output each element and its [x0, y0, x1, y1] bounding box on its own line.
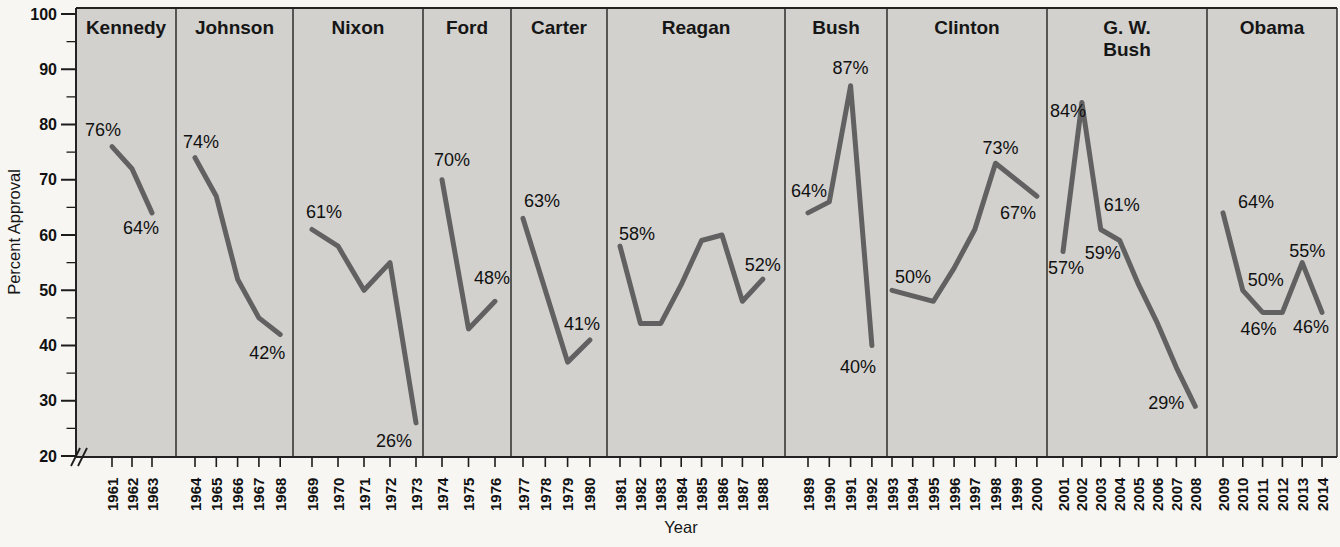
- year-label: 1965: [208, 478, 225, 511]
- year-label: 2012: [1274, 478, 1291, 511]
- year-label: 2011: [1254, 478, 1271, 511]
- year-label: 1973: [408, 478, 425, 511]
- year-label: 2000: [1028, 478, 1045, 511]
- year-label: 2004: [1111, 477, 1128, 511]
- year-label: 1966: [229, 478, 246, 511]
- panel-bg-johnson: [176, 8, 293, 457]
- data-label-kennedy-1963: 64%: [123, 218, 159, 238]
- data-label-nixon-1973: 26%: [376, 431, 412, 451]
- y-tick-label: 100: [30, 6, 57, 23]
- year-label: 1983: [652, 478, 669, 511]
- year-label: 2007: [1168, 478, 1185, 511]
- data-label-kennedy-1961: 76%: [85, 120, 121, 140]
- y-tick-label: 30: [39, 392, 57, 409]
- year-label: 1992: [863, 478, 880, 511]
- year-label: 1990: [821, 478, 838, 511]
- year-label: 2005: [1130, 478, 1147, 511]
- year-label: 1981: [612, 478, 629, 511]
- approval-chart-figure: Kennedy76%64%Johnson74%42%Nixon61%26%For…: [0, 0, 1340, 547]
- year-label: 2003: [1092, 478, 1109, 511]
- data-label-johnson-1964: 74%: [183, 132, 219, 152]
- y-tick-label: 50: [39, 282, 57, 299]
- data-label-bush-1992: 40%: [840, 357, 876, 377]
- data-label-obama-2013: 55%: [1289, 241, 1325, 261]
- panel-bg-ford: [423, 8, 511, 457]
- data-label-ford-1974: 70%: [434, 150, 470, 170]
- y-tick-label: 60: [39, 227, 57, 244]
- panel-title-nixon: Nixon: [332, 17, 385, 38]
- x-axis-title: Year: [664, 518, 698, 536]
- data-label-g-w-bush-2008: 29%: [1148, 393, 1184, 413]
- data-label-bush-1989: 64%: [791, 181, 827, 201]
- year-label: 1988: [754, 478, 771, 511]
- year-label: 2002: [1073, 478, 1090, 511]
- year-label: 1994: [904, 477, 921, 511]
- year-label: 1972: [382, 478, 399, 511]
- year-label: 1998: [987, 478, 1004, 511]
- year-label: 1975: [460, 478, 477, 511]
- year-label: 2009: [1215, 478, 1232, 511]
- year-label: 1987: [734, 478, 751, 511]
- panel-title-g-w-bush: Bush: [1103, 39, 1151, 60]
- panel-title-reagan: Reagan: [662, 17, 731, 38]
- data-label-obama-2009: 64%: [1238, 192, 1274, 212]
- data-label-obama-2011: 46%: [1241, 319, 1277, 339]
- data-label-obama-2010: 50%: [1248, 270, 1284, 290]
- year-label: 2013: [1294, 478, 1311, 511]
- year-label: 1997: [966, 478, 983, 511]
- year-label: 1996: [946, 478, 963, 511]
- data-label-clinton-2000: 67%: [1000, 203, 1036, 223]
- panel-title-g-w-bush: G. W.: [1103, 17, 1151, 38]
- year-label: 1974: [434, 477, 451, 511]
- panel-title-ford: Ford: [446, 17, 488, 38]
- year-label: 1969: [304, 478, 321, 511]
- year-label: 1976: [487, 478, 504, 511]
- y-tick-label: 20: [39, 448, 57, 465]
- y-tick-label: 70: [39, 171, 57, 188]
- data-label-nixon-1969: 61%: [306, 202, 342, 222]
- year-label: 1989: [800, 478, 817, 511]
- data-label-g-w-bush-2003: 61%: [1104, 195, 1140, 215]
- year-label: 1968: [272, 478, 289, 511]
- year-label: 1982: [632, 478, 649, 511]
- data-label-carter-1977: 63%: [524, 191, 560, 211]
- data-label-reagan-1988: 52%: [745, 255, 781, 275]
- year-label: 1999: [1008, 478, 1025, 511]
- panel-title-carter: Carter: [531, 17, 588, 38]
- year-label: 1991: [842, 478, 859, 511]
- y-axis-title: Percent Approval: [5, 169, 23, 295]
- year-label: 1967: [250, 478, 267, 511]
- approval-chart: Kennedy76%64%Johnson74%42%Nixon61%26%For…: [0, 0, 1340, 547]
- data-label-g-w-bush-2001: 57%: [1048, 258, 1084, 278]
- data-label-clinton-1998: 73%: [982, 138, 1018, 158]
- year-label: 1970: [330, 478, 347, 511]
- year-label: 1964: [187, 477, 204, 511]
- year-label: 1978: [537, 478, 554, 511]
- year-label: 2010: [1234, 478, 1251, 511]
- panel-title-bush: Bush: [812, 17, 860, 38]
- year-label: 2014: [1314, 477, 1331, 511]
- year-label: 1985: [693, 478, 710, 511]
- y-tick-label: 80: [39, 116, 57, 133]
- year-label: 2001: [1055, 478, 1072, 511]
- panel-title-obama: Obama: [1240, 17, 1305, 38]
- data-label-obama-2014: 46%: [1293, 317, 1329, 337]
- panel-title-kennedy: Kennedy: [86, 17, 167, 38]
- year-label: 1962: [124, 478, 141, 511]
- year-label: 2006: [1149, 478, 1166, 511]
- y-tick-label: 40: [39, 337, 57, 354]
- year-label: 1984: [673, 477, 690, 511]
- data-label-johnson-1968: 42%: [249, 343, 285, 363]
- data-label-ford-1976: 48%: [474, 268, 510, 288]
- y-tick-label: 90: [39, 61, 57, 78]
- year-label: 1993: [884, 478, 901, 511]
- year-label: 1980: [581, 478, 598, 511]
- panel-title-clinton: Clinton: [934, 17, 999, 38]
- year-label: 1961: [104, 478, 121, 511]
- year-label: 1971: [356, 478, 373, 511]
- panel-bg-clinton: [887, 8, 1047, 457]
- panel-bg-g-w-bush: [1047, 8, 1207, 457]
- panel-title-johnson: Johnson: [195, 17, 274, 38]
- year-label: 2008: [1187, 478, 1204, 511]
- year-label: 1986: [714, 478, 731, 511]
